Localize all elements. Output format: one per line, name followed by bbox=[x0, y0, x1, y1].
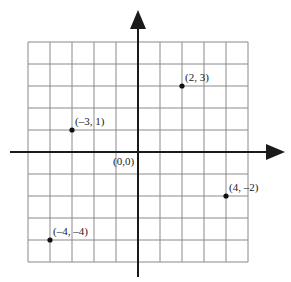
x-axis-arrow-icon bbox=[266, 144, 285, 160]
coordinate-plane bbox=[0, 0, 291, 282]
data-point bbox=[223, 193, 228, 198]
data-point bbox=[179, 83, 184, 88]
point-label: (–4, –4) bbox=[53, 226, 88, 237]
point-label: (2, 3) bbox=[185, 72, 209, 83]
data-point bbox=[47, 237, 52, 242]
y-axis-arrow-icon bbox=[130, 10, 146, 29]
origin-label: (0,0) bbox=[113, 156, 134, 167]
axes bbox=[10, 10, 285, 277]
point-label: (4, –2) bbox=[229, 182, 258, 193]
data-point bbox=[69, 127, 74, 132]
point-label: (–3, 1) bbox=[75, 116, 104, 127]
